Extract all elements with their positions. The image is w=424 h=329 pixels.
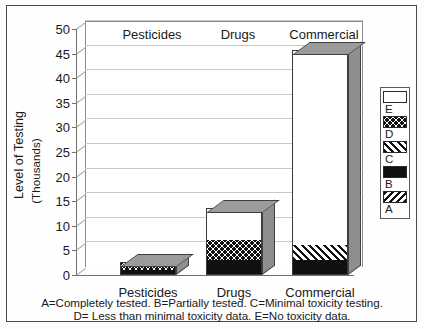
y-axis-tick xyxy=(72,275,77,276)
y-axis-subtitle: (Thousands) xyxy=(27,108,45,233)
legend-label-b: B xyxy=(383,178,407,191)
y-axis-tick xyxy=(72,29,77,30)
y-axis-tick xyxy=(72,201,77,202)
legend-swatch-c[interactable] xyxy=(383,141,407,153)
x-axis-line xyxy=(76,275,354,276)
y-axis-tick-label: 10 xyxy=(56,218,70,233)
legend-label-c: C xyxy=(383,153,407,166)
footnote: A=Completely tested. B=Partially tested.… xyxy=(14,297,410,322)
y-axis-title-text: Level of Testing xyxy=(12,111,26,199)
chart-figure: Level of Testing (Thousands) 05101520253… xyxy=(0,0,424,329)
footnote-line-2: D= Less than minimal toxicity data. E=No… xyxy=(14,310,410,323)
legend-label-a: A xyxy=(383,203,407,216)
bar-segment-e[interactable] xyxy=(292,51,348,245)
legend-swatch-b[interactable] xyxy=(383,166,407,178)
top-label-pesticides: Pesticides xyxy=(122,27,181,42)
y-axis-tick-label: 30 xyxy=(56,120,70,135)
legend-swatch-e[interactable] xyxy=(383,91,407,103)
y-axis-tick xyxy=(72,78,77,79)
y-axis-tick xyxy=(72,152,77,153)
y-axis-tick-label: 25 xyxy=(56,145,70,160)
y-axis-tick-label: 5 xyxy=(63,243,70,258)
y-axis-tick xyxy=(72,250,77,251)
y-axis-tick-label: 45 xyxy=(56,46,70,61)
legend[interactable]: EDCBA xyxy=(380,87,410,219)
bar-segment-d[interactable] xyxy=(206,240,262,261)
bar-segment-c[interactable] xyxy=(292,245,348,260)
bar-commercial[interactable] xyxy=(292,51,348,275)
bar-segment-e[interactable] xyxy=(206,209,262,240)
y-axis-tick-label: 20 xyxy=(56,169,70,184)
y-axis-subtitle-text: (Thousands) xyxy=(30,138,42,204)
legend-swatch-d[interactable] xyxy=(383,116,407,128)
bar-drugs[interactable] xyxy=(206,209,262,275)
bar-segment-b[interactable] xyxy=(206,260,262,275)
top-label-drugs: Drugs xyxy=(221,27,256,42)
bar-segment-b[interactable] xyxy=(120,270,176,275)
y-axis-tick xyxy=(72,226,77,227)
y-axis-tick xyxy=(72,103,77,104)
y-axis-tick-label: 50 xyxy=(56,22,70,37)
y-axis-tick xyxy=(72,177,77,178)
y-axis-tick xyxy=(72,127,77,128)
y-axis-tick-label: 40 xyxy=(56,71,70,86)
y-axis-tick-label: 15 xyxy=(56,194,70,209)
legend-label-d: D xyxy=(383,128,407,141)
y-axis-title: Level of Testing xyxy=(10,70,28,240)
plot-area: 05101520253035404550 PesticidesDrugsComm… xyxy=(76,21,363,276)
bar-segment-b[interactable] xyxy=(292,260,348,275)
legend-label-e: E xyxy=(383,103,407,116)
y-axis-tick xyxy=(72,54,77,55)
legend-swatch-a[interactable] xyxy=(383,191,407,203)
footnote-line-1: A=Completely tested. B=Partially tested.… xyxy=(14,297,410,310)
y-axis-tick-label: 35 xyxy=(56,95,70,110)
gridline xyxy=(85,20,363,21)
bar-side-face xyxy=(348,42,361,275)
top-label-commercial: Commercial xyxy=(289,27,358,42)
y-axis-tick-label: 0 xyxy=(63,268,70,283)
